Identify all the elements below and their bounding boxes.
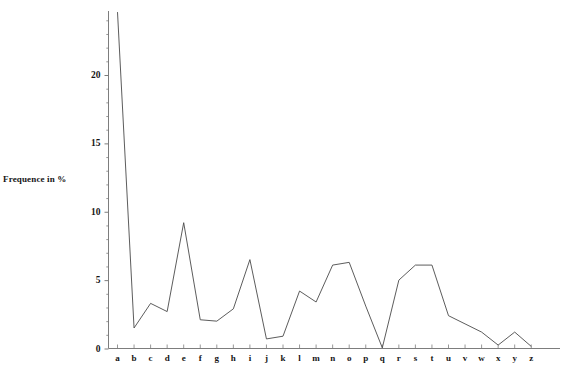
x-tick-label: s bbox=[409, 353, 421, 363]
x-tick-label: g bbox=[211, 353, 223, 363]
frequency-line bbox=[118, 12, 532, 348]
x-tick-label: t bbox=[426, 353, 438, 363]
x-tick-label: k bbox=[277, 353, 289, 363]
x-tick-label: r bbox=[393, 353, 405, 363]
x-tick-label: p bbox=[360, 353, 372, 363]
x-tick-label: w bbox=[476, 353, 488, 363]
y-tick-label: 0 bbox=[79, 344, 101, 354]
y-tick-label: 10 bbox=[79, 207, 101, 217]
x-tick-label: f bbox=[194, 353, 206, 363]
x-axis-ticks bbox=[118, 345, 532, 349]
x-tick-label: u bbox=[443, 353, 455, 363]
x-tick-label: c bbox=[145, 353, 157, 363]
y-tick-label: 20 bbox=[79, 70, 101, 80]
plot-area bbox=[0, 0, 564, 367]
x-tick-label: i bbox=[244, 353, 256, 363]
x-tick-label: d bbox=[161, 353, 173, 363]
x-tick-label: e bbox=[178, 353, 190, 363]
x-tick-label: q bbox=[376, 353, 388, 363]
x-tick-label: m bbox=[310, 353, 322, 363]
axes bbox=[105, 11, 561, 349]
letter-frequency-chart: Frequence in % 05101520 abcdefghijklmnop… bbox=[0, 0, 564, 367]
x-tick-label: n bbox=[327, 353, 339, 363]
x-tick-label: l bbox=[294, 353, 306, 363]
x-tick-label: j bbox=[260, 353, 272, 363]
x-tick-label: a bbox=[112, 353, 124, 363]
x-tick-label: h bbox=[227, 353, 239, 363]
data-series-group bbox=[118, 12, 532, 348]
x-tick-label: v bbox=[459, 353, 471, 363]
y-tick-label: 5 bbox=[79, 275, 101, 285]
y-axis-title: Frequence in % bbox=[3, 174, 66, 184]
x-tick-label: o bbox=[343, 353, 355, 363]
x-tick-label: b bbox=[128, 353, 140, 363]
y-tick-label: 15 bbox=[79, 138, 101, 148]
x-tick-label: x bbox=[492, 353, 504, 363]
x-tick-label: z bbox=[525, 353, 537, 363]
x-tick-label: y bbox=[509, 353, 521, 363]
